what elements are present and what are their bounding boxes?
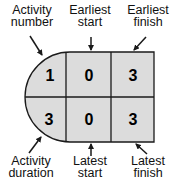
arrow-activity-number [30,36,42,55]
arrow-latest-finish [136,144,147,154]
cell-latest-start: 0 [85,111,94,128]
cell-activity-duration: 3 [45,111,54,128]
cell-latest-finish: 3 [129,111,138,128]
arrow-earliest-finish [134,37,146,50]
cell-earliest-finish: 3 [129,67,138,84]
activity-node-diagram: 1 0 3 3 0 3 [0,0,177,188]
arrow-activity-duration [29,137,41,153]
cell-earliest-start: 0 [85,67,94,84]
cell-activity-number: 1 [46,67,55,84]
